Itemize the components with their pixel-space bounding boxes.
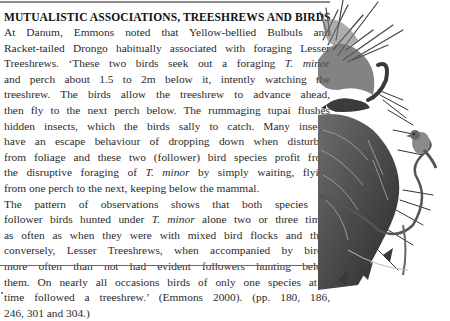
text-line: them. On nearly all occasions birds of o… (4, 275, 330, 291)
paragraph-1: At Danum, Emmons noted that Yellow-belli… (4, 25, 330, 197)
text-line: conversely, Lesser Treeshrews, when acco… (4, 243, 330, 259)
page-mark (1, 292, 3, 294)
text-line: hidden insects, which the birds sally to… (4, 119, 330, 135)
species-name: T. minor (152, 213, 195, 225)
text-line: Treeshrews. ‘These two birds seek out a … (4, 56, 330, 72)
text-line: as often as when they were with mixed bi… (4, 228, 330, 244)
bottom-rule (0, 265, 345, 266)
text-line: from one perch to the next, keeping belo… (4, 181, 330, 197)
text-line: time followed a treeshrew.’ (Emmons 2000… (4, 290, 330, 306)
top-border-rule (0, 1, 330, 3)
treeshrew-bird-illustration (318, 0, 450, 300)
article-title: MUTUALISTIC ASSOCIATIONS, TREESHREWS AND… (4, 10, 330, 25)
text-line: and perch about 1.5 to 2m below it, inte… (4, 72, 330, 88)
text-line: follower birds hunted under T. minor alo… (4, 212, 330, 228)
species-name: T. minor (145, 166, 189, 178)
text-line: have an escape behaviour of dropping dow… (4, 134, 330, 150)
text-line: Racket-tailed Drongo habitually associat… (4, 41, 330, 57)
text-line: treeshrew. The birds allow the treeshrew… (4, 87, 330, 103)
text-line: more often than not had evident follower… (4, 259, 330, 275)
text-line: the disruptive foraging of T. minor by s… (4, 165, 330, 181)
article-box: MUTUALISTIC ASSOCIATIONS, TREESHREWS AND… (4, 10, 330, 321)
article-body: At Danum, Emmons noted that Yellow-belli… (4, 25, 330, 321)
text-line: The pattern of observations shows that b… (4, 197, 330, 213)
text-line: from foliage and these two (follower) bi… (4, 150, 330, 166)
paragraph-2: The pattern of observations shows that b… (4, 197, 330, 321)
text-line: At Danum, Emmons noted that Yellow-belli… (4, 25, 330, 41)
text-line: then fly to the next perch below. The ru… (4, 103, 330, 119)
text-line: 246, 301 and 304.) (4, 306, 330, 321)
